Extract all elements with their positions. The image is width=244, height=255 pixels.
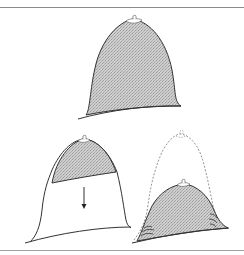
lifted-dome-shape xyxy=(137,184,228,241)
lifted-nipple-icon xyxy=(182,179,185,183)
top-dome-shape xyxy=(86,19,181,115)
bottom-rule xyxy=(0,250,244,251)
bottom-left-shaded-cap xyxy=(52,139,116,183)
top-dome xyxy=(78,15,181,119)
bottom-left-base-line xyxy=(25,227,131,243)
bottom-left-nipple-icon xyxy=(83,135,86,139)
original-nipple-dashed xyxy=(176,130,187,137)
bottom-left-dome xyxy=(25,135,131,243)
down-arrow-icon xyxy=(82,187,87,209)
diagram-canvas xyxy=(0,0,244,255)
top-nipple-icon xyxy=(133,15,136,19)
bottom-right-dome xyxy=(132,130,229,243)
